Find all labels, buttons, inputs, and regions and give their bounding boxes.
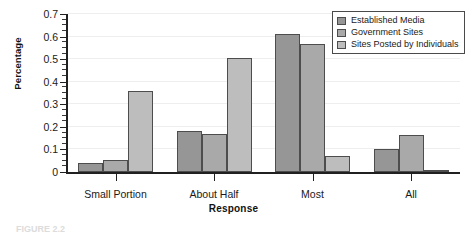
y-tick-label: 0.6 (43, 31, 58, 43)
gridline (68, 103, 460, 104)
gridline (68, 126, 460, 127)
bar (424, 170, 449, 172)
bar (177, 131, 202, 172)
y-tick-minor (62, 165, 66, 166)
x-tick-label: Small Portion (84, 188, 146, 200)
legend-item: Government Sites (337, 27, 459, 38)
y-tick-minor (62, 86, 66, 87)
x-tick-mark (411, 174, 412, 181)
chart-legend: Established MediaGovernment SitesSites P… (332, 11, 465, 54)
bar (374, 149, 399, 172)
gridline (68, 58, 460, 59)
legend-swatch-icon (337, 17, 346, 25)
legend-item: Sites Posted by Individuals (337, 39, 459, 50)
bar (275, 34, 300, 172)
figure-caption: FIGURE 2.2 (16, 224, 65, 233)
bar-chart-figure: Percentage 00.10.20.30.40.50.60.7 Small … (0, 0, 467, 233)
y-tick-minor (62, 160, 66, 161)
y-tick-minor (62, 137, 66, 138)
y-axis-title: Percentage (12, 19, 23, 109)
y-tick-minor (62, 30, 66, 31)
y-tick-label: 0.4 (43, 76, 58, 88)
y-tick-minor (62, 69, 66, 70)
legend-label: Sites Posted by Individuals (351, 39, 459, 50)
y-tick-mark (60, 59, 66, 60)
legend-swatch-icon (337, 41, 346, 49)
bar (202, 134, 227, 172)
bar (300, 44, 325, 172)
y-tick-minor (62, 115, 66, 116)
x-tick-label: Most (301, 188, 324, 200)
y-tick-label: 0.1 (43, 143, 58, 155)
y-tick-label: 0.5 (43, 53, 58, 65)
y-tick-label: 0 (52, 166, 58, 178)
y-tick-minor (62, 24, 66, 25)
y-tick-minor (62, 154, 66, 155)
x-tick-mark (313, 174, 314, 181)
y-tick-minor (62, 132, 66, 133)
y-tick-minor (62, 19, 66, 20)
y-tick-minor (62, 75, 66, 76)
y-tick-minor (62, 120, 66, 121)
y-tick-label: 0.7 (43, 8, 58, 20)
y-tick-minor (62, 41, 66, 42)
bar (128, 91, 153, 172)
x-tick-label: All (405, 188, 417, 200)
y-tick-minor (62, 64, 66, 65)
y-tick-mark (60, 104, 66, 105)
y-tick-minor (62, 53, 66, 54)
y-tick-minor (62, 98, 66, 99)
y-tick-mark (60, 37, 66, 38)
x-tick-label: About Half (189, 188, 238, 200)
bar (227, 58, 252, 172)
legend-label: Government Sites (351, 27, 423, 38)
y-tick-label: 0.2 (43, 121, 58, 133)
x-axis-title: Response (0, 203, 467, 214)
bar (325, 156, 350, 172)
y-tick-minor (62, 47, 66, 48)
y-tick-mark (60, 127, 66, 128)
x-axis-line (66, 172, 460, 174)
y-tick-minor (62, 143, 66, 144)
y-tick-mark (60, 172, 66, 173)
y-tick-mark (60, 82, 66, 83)
legend-swatch-icon (337, 29, 346, 37)
y-tick-minor (62, 92, 66, 93)
bar (103, 160, 128, 172)
y-axis-line (66, 14, 68, 172)
x-tick-mark (214, 174, 215, 181)
legend-item: Established Media (337, 15, 459, 26)
y-tick-minor (62, 109, 66, 110)
bar (78, 163, 103, 172)
bar (399, 135, 424, 172)
gridline (68, 81, 460, 82)
x-tick-mark (116, 174, 117, 181)
y-tick-mark (60, 14, 66, 15)
legend-label: Established Media (351, 15, 425, 26)
y-tick-mark (60, 149, 66, 150)
y-tick-label: 0.3 (43, 98, 58, 110)
